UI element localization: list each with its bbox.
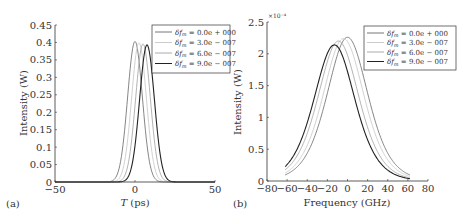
y-tick-label: 0.05 [30,159,52,170]
x-tick-label: 20 [361,183,374,194]
x-tick-label: 40 [381,183,394,194]
y-tick-label: 1 [258,112,264,123]
figure: −5005000.050.10.150.20.250.30.350.40.45 … [0,0,460,221]
x-tick-label: 80 [422,183,435,194]
chart-b-xlabel: Frequency (GHz) [303,197,390,208]
y-tick-label: 0 [258,176,264,187]
chart-a-xlabel-unit: (ps) [127,197,150,208]
y-tick-label: 0.5 [248,144,264,155]
x-tick-label: 60 [402,183,415,194]
x-tick-label: 0 [344,183,350,194]
chart-b-ylabel: Intensity (W) [232,69,243,135]
chart-a-ylabel: Intensity (W) [18,70,29,136]
y-tick-label: 1.5 [248,80,264,91]
y-tick-label: 2 [258,48,264,59]
chart-b-exponent: ×10⁻⁴ [268,12,287,19]
chart-a-legend: δfm = 0.0e + 000δfm = 3.0e − 007δfm = 6.… [152,25,236,73]
x-tick-label: 0 [132,184,138,195]
x-tick-label: 50 [209,184,222,195]
x-tick-label: −20 [317,183,338,194]
y-tick-label: 0.15 [30,124,52,135]
y-tick-label: 2.5 [248,17,264,28]
y-tick-label: 0.4 [36,37,52,48]
chart-a-xlabel: T (ps) [120,197,149,208]
y-tick-label: 0.45 [30,20,52,31]
y-tick-label: 0.3 [36,72,52,83]
y-tick-label: 0.25 [30,89,52,100]
y-tick-label: 0 [46,177,52,188]
chart-b: −80−60−40−2002040608000.511.522.5 ×10⁻⁴ … [232,12,456,209]
y-tick-label: 0.35 [30,54,52,65]
y-tick-label: 0.2 [36,107,52,118]
chart-b-legend: δfm = 0.0e + 000δfm = 3.0e − 007δfm = 6.… [364,26,456,70]
panel-label-b: (b) [233,198,247,209]
x-tick-label: −60 [277,183,298,194]
x-tick-label: −40 [297,183,318,194]
panel-label-a: (a) [6,198,20,209]
chart-a: −5005000.050.10.150.20.250.30.350.40.45 … [6,20,236,210]
y-tick-label: 0.1 [36,142,52,153]
